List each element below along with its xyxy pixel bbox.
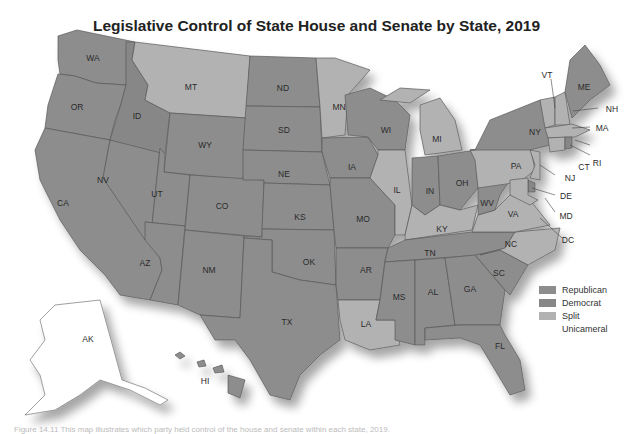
figure-caption: Figure 14.11 This map illustrates which … (14, 425, 390, 434)
label-IL: IL (393, 185, 400, 195)
label-AK: AK (82, 334, 94, 344)
label-ID: ID (133, 111, 142, 121)
label-OK: OK (303, 257, 316, 267)
label-VA: VA (508, 209, 519, 219)
label-VT: VT (542, 70, 553, 80)
state-CT (548, 137, 565, 152)
state-KS (262, 183, 334, 230)
label-FL: FL (495, 341, 505, 351)
label-CA: CA (57, 198, 69, 208)
label-UT: UT (151, 189, 162, 199)
state-NY (470, 100, 550, 150)
label-CO: CO (216, 201, 229, 211)
state-AK (25, 300, 168, 415)
label-OH: OH (456, 178, 469, 188)
legend-item-unicameral: Unicameral (539, 322, 608, 335)
legend-item-democrat: Democrat (539, 296, 608, 309)
label-WA: WA (86, 53, 100, 63)
label-PA: PA (511, 161, 522, 171)
label-MO: MO (356, 214, 370, 224)
label-SD: SD (278, 125, 290, 135)
label-MS: MS (393, 292, 406, 302)
state-RI (565, 137, 572, 149)
label-AR: AR (360, 265, 372, 275)
label-TX: TX (282, 317, 293, 327)
label-TN: TN (424, 248, 435, 258)
label-DE: DE (560, 191, 572, 201)
map-legend: Republican Democrat Split Unicameral (539, 283, 608, 335)
label-MT: MT (185, 82, 197, 92)
label-NJ: NJ (565, 173, 575, 183)
label-MN: MN (332, 102, 345, 112)
label-NV: NV (97, 175, 109, 185)
label-NE: NE (278, 169, 290, 179)
label-WV: WV (480, 198, 494, 208)
label-MD: MD (559, 211, 572, 221)
label-NM: NM (202, 265, 215, 275)
label-OR: OR (71, 102, 84, 112)
label-AZ: AZ (140, 258, 151, 268)
legend-swatch-split (539, 312, 556, 320)
label-NC: NC (505, 239, 517, 249)
label-MI: MI (432, 134, 441, 144)
label-ND: ND (277, 83, 289, 93)
label-WI: WI (381, 125, 391, 135)
label-MA: MA (596, 123, 609, 133)
label-GA: GA (464, 284, 477, 294)
label-ME: ME (578, 82, 591, 92)
legend-swatch-republican (539, 286, 556, 294)
legend-label-republican: Republican (562, 285, 607, 295)
label-HI: HI (201, 376, 210, 386)
legend-label-split: Split (562, 311, 580, 321)
state-HI (175, 352, 245, 398)
legend-item-split: Split (539, 309, 608, 322)
legend-item-republican: Republican (539, 283, 608, 296)
state-NE (243, 150, 330, 185)
label-IA: IA (348, 162, 356, 172)
label-KS: KS (294, 212, 306, 222)
label-KY: KY (436, 224, 448, 234)
legend-label-democrat: Democrat (562, 298, 601, 308)
label-NY: NY (529, 127, 541, 137)
label-CT: CT (578, 162, 589, 172)
label-SC: SC (493, 268, 505, 278)
label-RI: RI (593, 158, 602, 168)
label-AL: AL (428, 287, 439, 297)
legend-label-unicameral: Unicameral (562, 324, 608, 334)
label-NH: NH (606, 104, 618, 114)
label-IN: IN (426, 186, 435, 196)
legend-swatch-democrat (539, 299, 556, 307)
label-LA: LA (361, 319, 372, 329)
label-DC: DC (562, 235, 574, 245)
state-FL (425, 325, 525, 395)
state-DE (528, 180, 535, 192)
legend-swatch-unicameral (539, 325, 556, 333)
label-WY: WY (198, 140, 212, 150)
state-ND (246, 56, 320, 107)
